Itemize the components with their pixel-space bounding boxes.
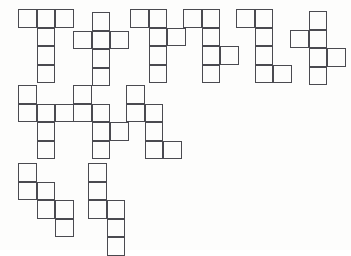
net-cell <box>126 104 145 123</box>
net-cell <box>163 141 182 160</box>
net-cell <box>92 104 111 123</box>
net-cell <box>202 65 221 84</box>
net-cell <box>145 141 164 160</box>
net-cell <box>309 48 328 67</box>
net-cell <box>126 85 145 104</box>
net-cell <box>92 68 111 87</box>
net-cell <box>92 12 111 31</box>
net-cell <box>327 48 346 67</box>
net-cell <box>73 104 92 123</box>
net-cell <box>149 9 168 28</box>
net-cell <box>18 182 37 201</box>
net-cell <box>18 9 37 28</box>
net-cell <box>55 9 74 28</box>
net-cell <box>309 11 328 30</box>
net-cell <box>273 65 292 84</box>
net-cell <box>145 104 164 123</box>
net-cell <box>110 122 129 141</box>
net-cell <box>73 31 92 50</box>
net-cell <box>309 30 328 49</box>
net-cell <box>110 31 129 50</box>
net-cell <box>149 28 168 47</box>
net-cell <box>309 67 328 86</box>
net-cell <box>18 104 37 123</box>
net-cell <box>18 85 37 104</box>
net-cell <box>92 31 111 50</box>
net-cell <box>202 9 221 28</box>
net-cell <box>55 219 74 238</box>
net-cell <box>107 219 126 238</box>
net-cell <box>55 104 74 123</box>
net-cell <box>149 46 168 65</box>
net-cell <box>255 9 274 28</box>
net-cell <box>92 141 111 160</box>
net-cell <box>92 49 111 68</box>
net-cell <box>88 200 107 219</box>
net-cell <box>37 141 56 160</box>
net-cell <box>255 28 274 47</box>
net-cell <box>37 46 56 65</box>
net-cell <box>255 46 274 65</box>
net-cell <box>37 65 56 84</box>
net-cell <box>236 9 255 28</box>
net-cell <box>130 9 149 28</box>
net-cell <box>183 9 202 28</box>
net-cell <box>37 200 56 219</box>
net-cell <box>290 30 309 49</box>
net-cell <box>73 85 92 104</box>
net-cell <box>88 182 107 201</box>
net-cell <box>37 122 56 141</box>
net-cell <box>107 200 126 219</box>
net-cell <box>255 65 274 84</box>
net-cell <box>18 163 37 182</box>
net-cell <box>202 46 221 65</box>
net-cell <box>37 28 56 47</box>
net-cell <box>92 122 111 141</box>
net-cell <box>202 28 221 47</box>
net-cell <box>55 200 74 219</box>
net-cell <box>145 122 164 141</box>
net-cell <box>167 28 186 47</box>
net-cell <box>220 46 239 65</box>
net-cell <box>149 65 168 84</box>
net-cell <box>37 104 56 123</box>
net-cell <box>88 163 107 182</box>
net-cell <box>37 182 56 201</box>
net-cell <box>107 237 126 256</box>
net-cell <box>37 9 56 28</box>
